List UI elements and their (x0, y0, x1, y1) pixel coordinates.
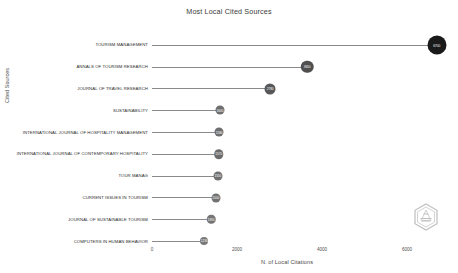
category-label: CURRENT ISSUES IN TOURISM (83, 194, 148, 201)
lollipop-stem (152, 67, 307, 68)
lollipop-stem (152, 132, 219, 133)
chart-container: Most Local Cited Sources Cited Sources T… (0, 0, 458, 273)
lollipop-stem (152, 219, 211, 220)
category-label: TOURISM MANAGEMENT (95, 41, 148, 48)
data-point-bubble[interactable]: 1230 (200, 237, 208, 245)
data-point-bubble[interactable]: 1390 (207, 215, 216, 224)
data-point-bubble[interactable]: 1600 (216, 106, 225, 115)
data-point-bubble[interactable]: 1570 (214, 149, 224, 159)
lollipop-stem (152, 88, 270, 89)
x-axis-title: N. of Local Citations (152, 259, 422, 265)
data-point-bubble[interactable]: 1580 (215, 128, 224, 137)
lollipop-stem (152, 176, 218, 177)
x-tick-label: 2000 (232, 247, 242, 252)
x-tick-label: 6000 (402, 247, 412, 252)
lollipop-stem (152, 110, 220, 111)
category-label: TOUR MANAG (118, 172, 148, 179)
hexagon-logo-icon (413, 203, 439, 231)
lollipop-stem (152, 45, 437, 46)
lollipop-stem (152, 241, 204, 242)
category-label: ANNALS OF TOURISM RESEARCH (76, 63, 148, 70)
data-point-bubble[interactable]: 6700 (427, 36, 446, 55)
data-point-bubble[interactable]: 3650 (301, 61, 314, 74)
category-label: COMPUTERS IN HUMAN BEHAVIOR (74, 238, 148, 245)
lollipop-stem (152, 197, 216, 198)
x-tick-label: 4000 (317, 247, 327, 252)
category-label: SUSTAINABILITY (113, 107, 148, 114)
data-point-bubble[interactable]: 1550 (213, 171, 222, 180)
category-label: INTERNATIONAL JOURNAL OF HOSPITALITY MAN… (23, 129, 148, 136)
category-label: JOURNAL OF SUSTAINABLE TOURISM (68, 216, 148, 223)
plot-area: TOURISM MANAGEMENT6700ANNALS OF TOURISM … (0, 0, 458, 273)
category-label: JOURNAL OF TRAVEL RESEARCH (77, 85, 148, 92)
category-label: INTERNATIONAL JOURNAL OF CONTEMPORARY HO… (17, 150, 148, 157)
data-point-bubble[interactable]: 1500 (211, 193, 220, 202)
lollipop-stem (152, 154, 219, 155)
data-point-bubble[interactable]: 2780 (265, 83, 276, 94)
x-tick-label: 0 (151, 247, 154, 252)
